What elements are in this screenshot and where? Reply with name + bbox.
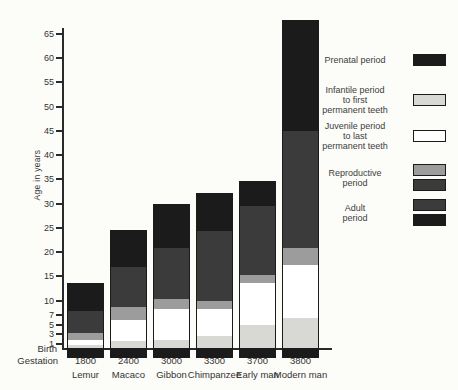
segment-gibbon-juvenile	[154, 309, 189, 340]
legend-label-line: Prenatal period	[302, 55, 408, 65]
segment-lemur-repro-band	[68, 333, 103, 340]
legend-item-adult: Adultperiod	[302, 199, 446, 226]
legend-label-line: to first	[302, 95, 408, 105]
legend-label-juvenile: Juvenile periodto lastpermanent teeth	[302, 121, 408, 151]
legend-label-line: period	[302, 213, 408, 223]
bar-macaco	[110, 230, 147, 349]
y-tick-mark-3	[56, 333, 63, 335]
legend-label-line: Juvenile period	[302, 121, 408, 131]
legend-item-reproductive: Reproductiveperiod	[302, 164, 446, 191]
legend-label-line: Infantile period	[302, 85, 408, 95]
legend-label-line: Adult	[302, 203, 408, 213]
legend-label-line: Reproductive	[302, 168, 408, 178]
y-tick-label-1: 1	[28, 339, 54, 349]
primate-life-periods-chart: Age in years Birth Gestation 65605550454…	[0, 0, 458, 390]
legend-swatch-prenatal-black	[413, 54, 446, 66]
gestation-row-label: Gestation	[7, 355, 58, 366]
segment-macaco-repro	[111, 267, 146, 307]
segment-modern-man-repro-band	[283, 248, 318, 265]
segment-early-man-repro-band	[240, 275, 275, 284]
segment-macaco-repro-band	[111, 307, 146, 320]
category-label-modern-man: Modern man	[265, 369, 337, 380]
segment-early-man-infantile	[240, 325, 275, 348]
legend-swatch-juvenile-white	[413, 130, 446, 142]
segment-lemur-adult	[68, 284, 103, 312]
y-tick-label-5: 5	[28, 320, 54, 330]
segment-macaco-juvenile	[111, 320, 146, 341]
segment-chimpanzee-infantile	[197, 336, 232, 348]
legend: Prenatal periodInfantile periodto firstp…	[0, 0, 458, 240]
y-tick-label-20: 20	[28, 247, 54, 257]
y-tick-mark-5	[56, 324, 63, 326]
y-tick-mark-20	[56, 251, 63, 253]
segment-early-man-juvenile	[240, 283, 275, 324]
y-tick-mark-10	[56, 300, 63, 302]
legend-label-infantile: Infantile periodto firstpermanent teeth	[302, 85, 408, 115]
bar-lemur	[67, 283, 104, 349]
segment-lemur-infantile	[68, 345, 103, 348]
segment-macaco-infantile	[111, 341, 146, 348]
legend-item-infantile: Infantile periodto firstpermanent teeth	[302, 85, 446, 115]
legend-swatches-reproductive	[413, 164, 446, 191]
legend-label-line: permanent teeth	[302, 141, 408, 151]
segment-chimpanzee-repro-band	[197, 301, 232, 309]
legend-label-line: permanent teeth	[302, 105, 408, 115]
y-tick-mark-1	[56, 343, 63, 345]
legend-swatches-infantile	[413, 94, 446, 106]
legend-swatch-adult-black	[413, 214, 446, 226]
segment-modern-man-juvenile	[283, 265, 318, 319]
legend-swatches-adult	[413, 199, 446, 226]
segment-chimpanzee-repro	[197, 231, 232, 301]
legend-swatch-reproductive-dark	[413, 179, 446, 191]
legend-label-reproductive: Reproductiveperiod	[302, 168, 408, 188]
segment-lemur-repro	[68, 311, 103, 333]
segment-chimpanzee-juvenile	[197, 309, 232, 336]
legend-swatches-juvenile	[413, 130, 446, 142]
legend-swatches-prenatal	[413, 54, 446, 66]
legend-label-line: period	[302, 178, 408, 188]
gestation-value-modern-man: 3800	[271, 355, 331, 366]
y-tick-label-15: 15	[28, 271, 54, 281]
legend-swatch-adult-dark	[413, 199, 446, 211]
legend-label-adult: Adultperiod	[302, 203, 408, 223]
legend-label-prenatal: Prenatal period	[302, 55, 408, 65]
y-tick-mark-15	[56, 275, 63, 277]
y-tick-label-10: 10	[28, 296, 54, 306]
legend-label-line: to last	[302, 131, 408, 141]
segment-gibbon-infantile	[154, 340, 189, 348]
y-tick-label-7: 7	[28, 310, 54, 320]
segment-gibbon-repro	[154, 248, 189, 300]
legend-swatch-infantile-light	[413, 94, 446, 106]
legend-item-prenatal: Prenatal period	[302, 54, 446, 66]
legend-item-juvenile: Juvenile periodto lastpermanent teeth	[302, 121, 446, 151]
segment-modern-man-infantile	[283, 318, 318, 348]
segment-gibbon-repro-band	[154, 299, 189, 309]
legend-swatch-reproductive-medium	[413, 164, 446, 176]
y-tick-label-3: 3	[28, 329, 54, 339]
y-tick-mark-7	[56, 314, 63, 316]
